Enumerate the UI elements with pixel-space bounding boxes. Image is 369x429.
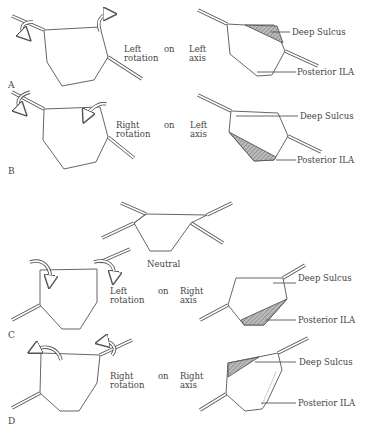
panel-c-deep-sulcus-label: Deep Sulcus — [298, 273, 352, 283]
panel-a-letter: A — [8, 80, 15, 90]
panel-b-deep-sulcus-label: Deep Sulcus — [300, 111, 354, 121]
panel-d-posterior-ila-label: Posterior ILA — [298, 398, 355, 408]
panel-a-sacrum — [12, 14, 142, 86]
panel-d-deep-sulcus-label: Deep Sulcus — [299, 357, 353, 367]
neutral-sacrum — [102, 203, 232, 251]
panel-c-letter: C — [8, 330, 15, 340]
panel-c-caption: Left on Right rotation axis — [110, 286, 202, 308]
panel-a-deep-sulcus-label: Deep Sulcus — [292, 27, 346, 37]
panel-c-sacrum-result — [200, 265, 305, 325]
panel-d-sacrum-result — [200, 338, 308, 411]
panel-b-posterior-ila-label: Posterior ILA — [297, 155, 354, 165]
panel-b-caption: Right on Left rotation axis — [116, 120, 210, 142]
panel-a-posterior-ila-label: Posterior ILA — [297, 67, 354, 77]
panel-b-letter: B — [8, 166, 15, 176]
panel-c-posterior-ila-label: Posterior ILA — [298, 315, 355, 325]
panel-b-sacrum-result — [198, 95, 321, 161]
panel-d-letter: D — [8, 416, 15, 426]
panel-a-caption: Left on Left rotation axis — [124, 44, 210, 66]
neutral-label: Neutral — [147, 259, 180, 269]
panel-d-caption: Right on Right rotation axis — [110, 371, 202, 393]
